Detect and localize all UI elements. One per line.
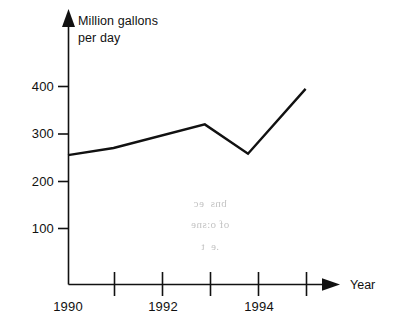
y-axis-title-line2: per day: [78, 31, 120, 46]
y-tick-label-400: 400: [14, 79, 54, 94]
x-axis-title: Year: [350, 278, 375, 293]
y-tick-label-100: 100: [14, 221, 54, 236]
y-axis-arrowhead: [62, 9, 75, 27]
chart-canvas: [0, 0, 400, 323]
x-tick-label-1990: 1990: [42, 299, 94, 314]
x-tick-label-1994: 1994: [233, 299, 285, 314]
y-tick-label-300: 300: [14, 126, 54, 141]
y-tick-label-200: 200: [14, 174, 54, 189]
x-tick-label-1992: 1992: [137, 299, 189, 314]
data-series-line: [68, 89, 306, 155]
y-axis-title-line1: Million gallons: [78, 14, 158, 29]
y-axis-ticks: [58, 87, 69, 229]
line-chart-figure: Million gallons per day 400 300 200 100 …: [0, 0, 400, 323]
x-axis-arrowhead: [322, 278, 340, 291]
